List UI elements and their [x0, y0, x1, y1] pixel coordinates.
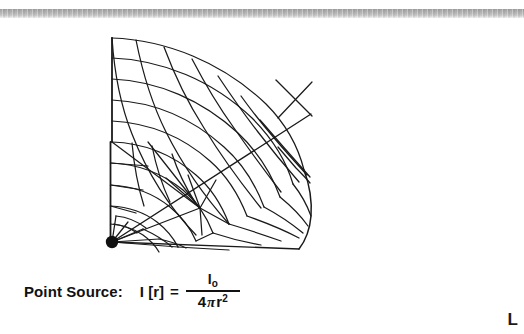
- point-source-label: Point Source:: [24, 283, 123, 300]
- denominator-exponent: 2: [222, 293, 228, 304]
- mesh-line-group: [111, 38, 313, 252]
- formula-equals-sign: =: [170, 283, 179, 300]
- formula-lhs: I [r]: [140, 283, 164, 300]
- point-source-radial-mesh-figure: [96, 30, 326, 258]
- document-page: Point Source: I [r] = Io 4πr2 L: [0, 0, 524, 334]
- figure-caption: Point Source: I [r] = Io 4πr2: [24, 272, 240, 310]
- formula-fraction: Io 4πr2: [186, 272, 240, 310]
- numerator-subscript: o: [212, 278, 218, 289]
- point-source-dot: [106, 236, 118, 248]
- page-corner-crop-mark: L: [508, 311, 518, 328]
- scanner-artifact-band: [0, 9, 524, 18]
- formula-numerator: Io: [202, 272, 224, 290]
- denominator-coefficient: 4: [198, 293, 206, 310]
- pi-symbol: π: [206, 294, 216, 310]
- formula-denominator: 4πr2: [193, 292, 233, 310]
